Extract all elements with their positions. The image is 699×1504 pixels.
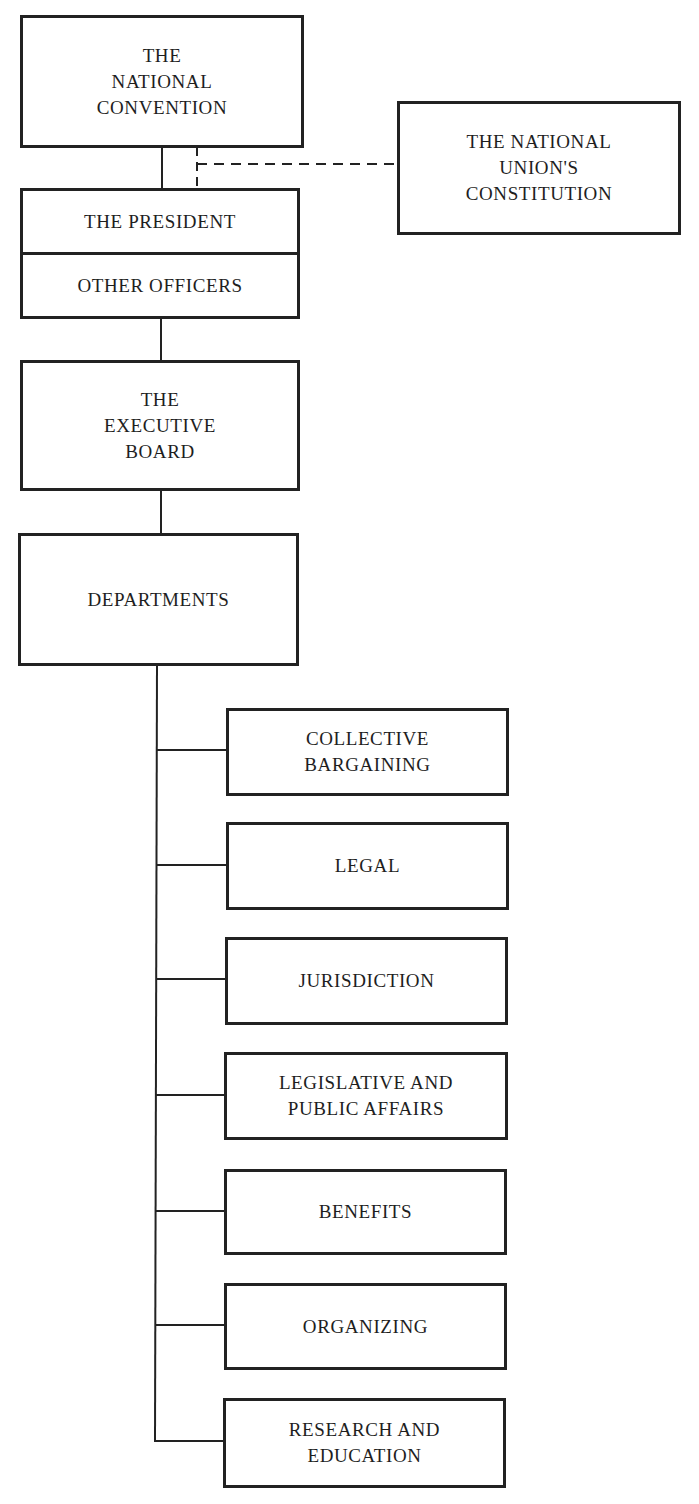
- node-president: THE PRESIDENT: [23, 191, 297, 252]
- node-label: LEGISLATIVE AND PUBLIC AFFAIRS: [279, 1070, 453, 1122]
- node-label: THE NATIONAL UNION'S CONSTITUTION: [466, 129, 613, 207]
- node-label: THE NATIONAL CONVENTION: [97, 43, 228, 121]
- node-label: BENEFITS: [319, 1199, 412, 1225]
- node-department-organizing: ORGANIZING: [224, 1283, 507, 1370]
- node-label: ORGANIZING: [303, 1314, 428, 1340]
- node-department-collective-bargaining: COLLECTIVE BARGAINING: [226, 708, 509, 796]
- node-label: THE PRESIDENT: [84, 209, 236, 235]
- node-label: OTHER OFFICERS: [77, 273, 242, 299]
- node-union-constitution: THE NATIONAL UNION'S CONSTITUTION: [397, 101, 681, 235]
- node-other-officers: OTHER OFFICERS: [23, 252, 297, 316]
- node-department-jurisdiction: JURISDICTION: [225, 937, 508, 1025]
- node-label: COLLECTIVE BARGAINING: [304, 726, 430, 778]
- node-label: JURISDICTION: [299, 968, 435, 994]
- node-label: RESEARCH AND EDUCATION: [289, 1417, 440, 1469]
- node-executive-board: THE EXECUTIVE BOARD: [20, 360, 300, 491]
- node-label: LEGAL: [335, 853, 400, 879]
- node-department-legislative-public-affairs: LEGISLATIVE AND PUBLIC AFFAIRS: [224, 1052, 508, 1140]
- node-label: DEPARTMENTS: [87, 587, 229, 613]
- node-department-research-education: RESEARCH AND EDUCATION: [223, 1398, 506, 1488]
- node-national-convention: THE NATIONAL CONVENTION: [20, 15, 304, 148]
- node-label: THE EXECUTIVE BOARD: [104, 387, 216, 465]
- node-department-benefits: BENEFITS: [224, 1169, 507, 1255]
- node-department-legal: LEGAL: [226, 822, 509, 910]
- node-departments: DEPARTMENTS: [18, 533, 299, 666]
- node-officers-group: THE PRESIDENT OTHER OFFICERS: [20, 188, 300, 319]
